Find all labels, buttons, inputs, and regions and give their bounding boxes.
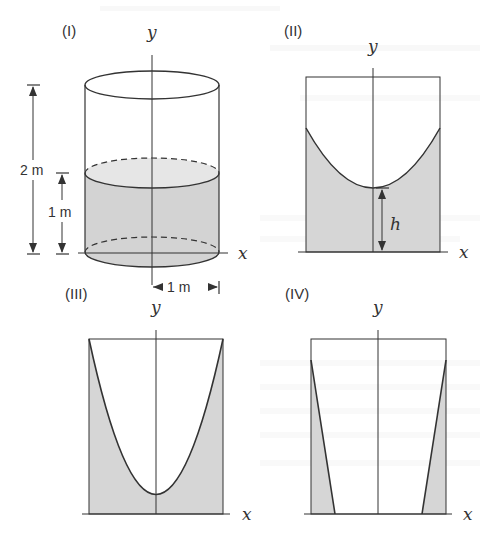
arrow-down-icon [29, 243, 37, 253]
panel-4-x-label: x [463, 504, 473, 524]
panel-1-x-label: x [238, 243, 248, 263]
panel-3-y-label: y [150, 297, 161, 317]
dimension-1m-radius: 1 m [153, 279, 219, 295]
arrow-left-icon [153, 283, 163, 291]
figure-canvas: (I) y x 2 m [0, 0, 490, 541]
panel-3-label: (III) [65, 285, 88, 302]
panel-4-wall-layers: (IV) y x [285, 285, 473, 524]
panel-1-label: (I) [62, 22, 76, 39]
dimension-1m-height-label: 1 m [48, 204, 71, 220]
panel-1-y-label: y [146, 22, 157, 42]
panel-2-x-label: x [459, 242, 469, 262]
panel-4-y-label: y [372, 297, 383, 317]
dimension-1m-radius-label: 1 m [167, 279, 190, 295]
arrow-up-icon [58, 174, 66, 184]
panel-3-deep-paraboloid: (III) y x [65, 285, 252, 524]
arrow-down-icon [58, 243, 66, 253]
dimension-2m-label: 2 m [20, 162, 43, 178]
panel-2-y-label: y [367, 36, 378, 56]
panel-4-label: (IV) [285, 285, 309, 302]
panel-3-x-label: x [242, 504, 252, 524]
panel-2-paraboloid: (II) y x h [284, 22, 469, 262]
h-label: h [390, 214, 401, 234]
arrow-right-icon [208, 283, 218, 291]
panel-1-cylinder: (I) y x 2 m [20, 22, 248, 295]
dimension-2m: 2 m [20, 85, 43, 254]
panel-2-label: (II) [284, 22, 302, 39]
dimension-1m-height: 1 m [48, 173, 71, 254]
arrow-up-icon [29, 86, 37, 96]
